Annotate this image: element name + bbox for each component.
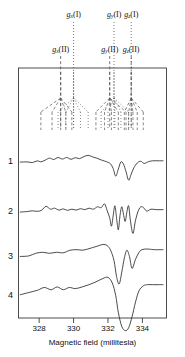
x-tick-label-330: 330 [62, 324, 86, 333]
x-tick-label-332: 332 [96, 324, 120, 333]
figure-background [0, 0, 185, 357]
trace-number-4: 4 [8, 290, 13, 300]
g-label-row2-1: gy(II) [101, 45, 118, 56]
g-label-row1-1: gy(I) [107, 10, 121, 21]
epr-spectra-figure [0, 0, 185, 357]
g-label-row2-0: gx(II) [52, 45, 69, 56]
x-tick-label-328: 328 [27, 324, 51, 333]
g-label-row1-0: gx(I) [67, 10, 81, 21]
trace-number-3: 3 [8, 251, 13, 261]
trace-number-1: 1 [8, 156, 13, 166]
trace-number-2: 2 [8, 206, 13, 216]
x-axis-title: Magnetic field (millitesla) [0, 338, 185, 347]
g-label-row1-2: gz(I) [124, 10, 138, 21]
x-tick-label-334: 334 [130, 324, 154, 333]
g-label-row2-2: gz(II) [123, 45, 140, 56]
